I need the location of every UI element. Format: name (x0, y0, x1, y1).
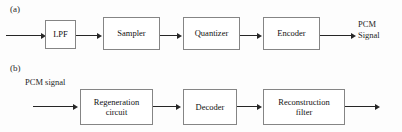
arrow-regeneration-to-decoder-head (176, 104, 181, 110)
panel-label-a: (a) (10, 4, 20, 14)
arrow-quantizer-to-encoder-line (240, 35, 258, 36)
pcm-block-diagram: (a) LPF Sampler Quantizer Encoder PCM Si… (0, 0, 402, 132)
block-sampler: Sampler (103, 17, 160, 50)
panel-label-b: (b) (10, 63, 21, 73)
block-lpf: LPF (45, 20, 76, 49)
arrow-regeneration-to-decoder-line (153, 106, 177, 107)
block-decoder-label: Decoder (196, 102, 225, 113)
arrow-input-to-lpf-line (6, 35, 43, 36)
arrow-sampler-to-quantizer-head (177, 33, 182, 39)
block-regeneration-circuit-label: Regeneration circuit (94, 97, 139, 118)
arrow-encoder-to-output-head (351, 33, 356, 39)
block-lpf-label: LPF (53, 29, 68, 40)
block-quantizer-label: Quantizer (195, 28, 229, 39)
arrow-lpf-to-sampler-line (76, 35, 98, 36)
output-label-pcm-line1: PCM (358, 19, 376, 29)
arrow-reconstruction-to-output-line (345, 106, 376, 107)
block-quantizer: Quantizer (183, 17, 240, 50)
arrow-quantizer-to-encoder-head (257, 33, 262, 39)
arrow-input-to-regeneration-head (73, 104, 78, 110)
block-encoder-label: Encoder (277, 28, 305, 39)
arrow-decoder-to-reconstruction-line (237, 106, 258, 107)
block-decoder: Decoder (183, 89, 237, 125)
arrow-reconstruction-to-output-head (375, 104, 380, 110)
block-sampler-label: Sampler (117, 28, 145, 39)
arrow-decoder-to-reconstruction-head (257, 104, 262, 110)
block-reconstruction-filter-label: Reconstruction filter (278, 97, 329, 118)
arrow-lpf-to-sampler-head (97, 33, 102, 39)
arrow-sampler-to-quantizer-line (160, 35, 178, 36)
block-reconstruction-filter: Reconstruction filter (263, 89, 345, 125)
arrow-encoder-to-output-line (320, 35, 352, 36)
input-label-pcm-signal: PCM signal (25, 77, 65, 87)
block-encoder: Encoder (263, 17, 320, 50)
output-label-pcm-line2: Signal (358, 30, 380, 40)
block-regeneration-circuit: Regeneration circuit (80, 89, 153, 125)
arrow-input-to-regeneration-line (33, 106, 74, 107)
